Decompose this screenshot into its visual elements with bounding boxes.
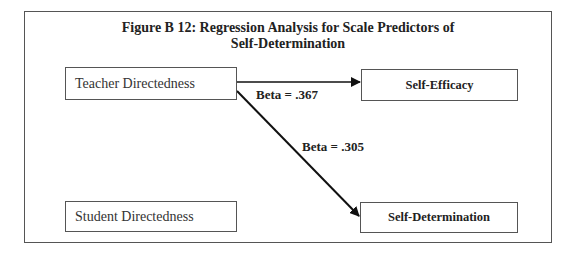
node-teacher-directedness: Teacher Directedness <box>65 67 237 100</box>
node-student-directedness: Student Directedness <box>65 201 237 232</box>
node-self-determination: Self-Determination <box>360 202 518 233</box>
edge-label-beta-305: Beta = .305 <box>302 139 364 155</box>
node-self-efficacy: Self-Efficacy <box>361 69 518 101</box>
node-label: Self-Efficacy <box>405 78 473 93</box>
edge-label-beta-367: Beta = .367 <box>256 87 318 103</box>
node-label: Self-Determination <box>388 210 490 225</box>
node-label: Teacher Directedness <box>75 76 195 92</box>
node-label: Student Directedness <box>75 209 194 225</box>
